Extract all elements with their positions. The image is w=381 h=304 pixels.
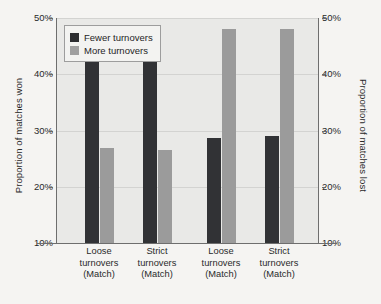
legend-label: Fewer turnovers <box>84 32 153 43</box>
legend-item-1: More turnovers <box>70 44 153 56</box>
y-tick-mark-right-30 <box>322 131 326 132</box>
y-axis-line-left <box>56 18 57 244</box>
legend-item-0: Fewer turnovers <box>70 31 153 43</box>
legend-label: More turnovers <box>84 45 148 56</box>
x-category-label-line: turnovers <box>189 258 253 270</box>
y-tick-label-left-40: 40% <box>19 68 53 79</box>
gridline-50 <box>57 18 318 19</box>
y-tick-label-right-20: 20% <box>322 181 356 192</box>
x-axis-line <box>37 243 337 244</box>
x-category-label-line: turnovers <box>125 258 189 270</box>
y-axis-line-right <box>318 18 319 244</box>
x-category-label-line: Strict <box>247 246 311 258</box>
x-category-label-line: Strict <box>125 246 189 258</box>
x-category-label-line: Loose <box>189 246 253 258</box>
y-tick-mark-right-20 <box>322 187 326 188</box>
x-category-label-line: (Match) <box>125 269 189 281</box>
bar-series0-cat0 <box>85 51 99 243</box>
y-tick-label-left-50: 50% <box>19 12 53 23</box>
bar-series1-cat0 <box>100 148 114 243</box>
x-category-label-line: (Match) <box>189 269 253 281</box>
x-category-label-line: turnovers <box>247 258 311 270</box>
bar-series1-cat2 <box>222 29 236 243</box>
y-tick-mark-left-20 <box>49 187 53 188</box>
y-tick-label-left-20: 20% <box>19 181 53 192</box>
x-category-label-line: turnovers <box>67 258 131 270</box>
y-tick-mark-left-30 <box>49 131 53 132</box>
bar-series0-cat3 <box>265 136 279 243</box>
chart-legend: Fewer turnoversMore turnovers <box>64 25 161 62</box>
y-tick-label-right-30: 30% <box>322 125 356 136</box>
bar-series0-cat2 <box>207 138 221 243</box>
x-category-label-1: Strictturnovers(Match) <box>125 246 189 281</box>
x-category-label-2: Looseturnovers(Match) <box>189 246 253 281</box>
x-axis-category-labels: Looseturnovers(Match)Strictturnovers(Mat… <box>57 246 318 298</box>
x-category-label-line: Loose <box>67 246 131 258</box>
x-category-label-line: (Match) <box>67 269 131 281</box>
legend-swatch-dark <box>70 33 79 42</box>
bar-series1-cat3 <box>280 29 294 243</box>
bar-series0-cat1 <box>143 51 157 243</box>
y-tick-label-left-30: 30% <box>19 125 53 136</box>
y-tick-label-right-50: 50% <box>322 12 356 23</box>
x-category-label-0: Looseturnovers(Match) <box>67 246 131 281</box>
x-category-label-line: (Match) <box>247 269 311 281</box>
y-axis-ticks-right: 50%40%30%20%10% <box>322 0 360 304</box>
x-category-label-3: Strictturnovers(Match) <box>247 246 311 281</box>
y-axis-ticks-left: 50%40%30%20%10% <box>15 0 53 304</box>
y-tick-label-right-40: 40% <box>322 68 356 79</box>
y-tick-mark-right-50 <box>322 18 326 19</box>
y-tick-mark-left-50 <box>49 18 53 19</box>
y-tick-mark-left-40 <box>49 74 53 75</box>
y-tick-mark-right-40 <box>322 74 326 75</box>
legend-swatch-light <box>70 46 79 55</box>
chart-figure: Proportion of matches won Proportion of … <box>0 0 381 304</box>
bar-series1-cat1 <box>158 150 172 243</box>
